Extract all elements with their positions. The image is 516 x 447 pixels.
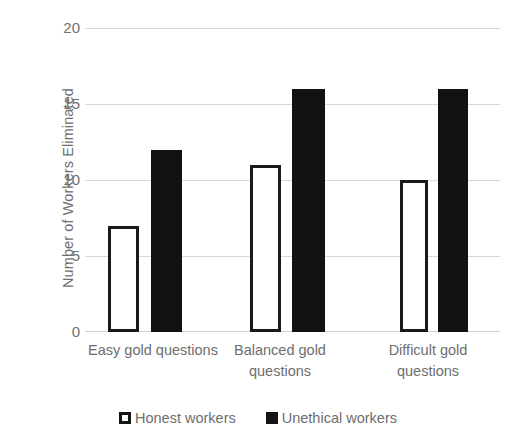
bar-honest-difficult [400,180,428,332]
legend-label-unethical: Unethical workers [282,410,397,426]
x-axis-tick-labels: Easy gold questions Balanced gold questi… [85,340,500,402]
legend-item-honest-workers: Honest workers [119,410,236,426]
bar-unethical-difficult [438,89,468,332]
bar-chart: Number of Workers Eliminated 20 15 10 5 … [0,0,516,447]
plot-area [85,28,500,332]
gridline-20 [85,28,500,29]
x-tick-label-difficult: Difficult gold questions [363,340,493,382]
y-tick-label-15: 15 [40,96,80,111]
legend-item-unethical-workers: Unethical workers [266,410,397,426]
y-axis-tick-labels: 20 15 10 5 0 [36,0,80,447]
chart-legend: Honest workers Unethical workers [0,410,516,426]
y-tick-label-10: 10 [40,172,80,187]
bar-unethical-balanced [292,89,325,332]
bar-honest-balanced [250,165,281,332]
x-tick-label-easy: Easy gold questions [73,340,233,361]
y-tick-label-5: 5 [40,248,80,263]
y-tick-label-0: 0 [40,324,80,339]
bar-unethical-easy [151,150,182,332]
bar-honest-easy [108,226,139,332]
legend-swatch-icon-unethical [266,412,278,424]
x-tick-label-balanced: Balanced gold questions [215,340,345,382]
y-tick-label-20: 20 [40,20,80,35]
legend-label-honest: Honest workers [135,410,236,426]
legend-swatch-icon-honest [119,412,131,424]
